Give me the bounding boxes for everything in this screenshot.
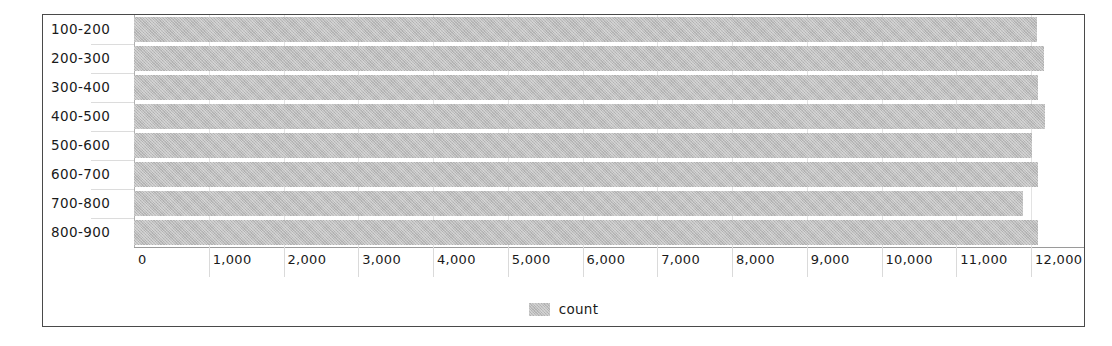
bar-row (134, 131, 1084, 160)
axis-tick-label: 3,000 (362, 252, 401, 267)
axis-tick-mark (882, 247, 883, 277)
axis-tick-label: 1,000 (213, 252, 252, 267)
axis-tick-label: 9,000 (811, 252, 850, 267)
bar-row (134, 218, 1084, 247)
plot-wrapper: 100-200200-300300-400400-500500-600600-7… (43, 15, 1084, 247)
axis-tick-mark (284, 247, 285, 277)
axis-tick-label: 12,000 (1035, 252, 1082, 267)
bar-row (134, 189, 1084, 218)
bar-count[interactable] (134, 220, 1038, 245)
axis-tick-mark (209, 247, 210, 277)
axis-tick-mark (433, 247, 434, 277)
bar-row (134, 73, 1084, 102)
legend-swatch-count (529, 303, 550, 316)
chart-legend: count (43, 297, 1084, 321)
bar-count[interactable] (134, 133, 1032, 158)
bar-count[interactable] (134, 104, 1045, 129)
category-label: 800-900 (51, 218, 134, 247)
axis-tick-mark (1031, 247, 1032, 277)
category-label: 300-400 (51, 73, 134, 102)
bar-count[interactable] (134, 46, 1044, 71)
category-label: 200-300 (51, 44, 134, 73)
chart-panel: 100-200200-300300-400400-500500-600600-7… (42, 14, 1085, 327)
category-label: 400-500 (51, 102, 134, 131)
axis-tick-mark (508, 247, 509, 277)
category-label: 700-800 (51, 189, 134, 218)
axis-tick-mark (657, 247, 658, 277)
axis-tick-mark (956, 247, 957, 277)
category-label: 500-600 (51, 131, 134, 160)
axis-tick-mark (358, 247, 359, 277)
axis-tick-label: 5,000 (512, 252, 551, 267)
bar-row (134, 102, 1084, 131)
axis-tick-mark (732, 247, 733, 277)
legend-label-count: count (559, 301, 599, 317)
bar-row (134, 44, 1084, 73)
bar-row (134, 160, 1084, 189)
bar-count[interactable] (134, 75, 1038, 100)
bar-count[interactable] (134, 162, 1038, 187)
category-label: 600-700 (51, 160, 134, 189)
plot-area (134, 15, 1084, 247)
axis-tick-label: 4,000 (437, 252, 476, 267)
axis-tick-mark (583, 247, 584, 277)
axis-tick-label: 10,000 (886, 252, 933, 267)
axis-tick-label: 8,000 (736, 252, 775, 267)
axis-tick-label: 7,000 (661, 252, 700, 267)
axis-tick-mark (807, 247, 808, 277)
axis-tick-label: 11,000 (960, 252, 1007, 267)
category-axis: 100-200200-300300-400400-500500-600600-7… (51, 15, 134, 247)
category-label: 100-200 (51, 15, 134, 44)
value-axis: 01,0002,0003,0004,0005,0006,0007,0008,00… (134, 247, 1084, 283)
bar-row (134, 15, 1084, 44)
bar-count[interactable] (134, 17, 1037, 42)
bar-count[interactable] (134, 191, 1023, 216)
value-axis-line (134, 247, 1084, 248)
axis-tick-label: 0 (138, 252, 147, 267)
axis-tick-label: 2,000 (288, 252, 327, 267)
axis-tick-label: 6,000 (587, 252, 626, 267)
